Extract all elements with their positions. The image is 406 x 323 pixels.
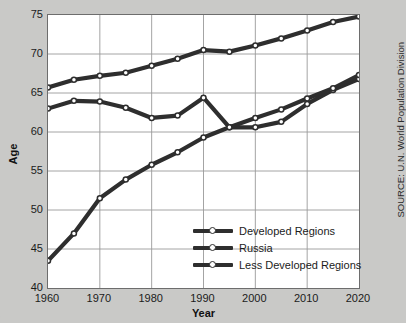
legend-item-developed-regions: Developed Regions — [193, 222, 353, 239]
x-tick-label: 1990 — [180, 293, 226, 304]
legend-label: Developed Regions — [239, 225, 335, 237]
chart-legend: Developed Regions Russia Less Developed … — [193, 222, 353, 273]
legend-label: Russia — [239, 242, 273, 254]
y-tick-label: 45 — [15, 243, 43, 254]
y-tick-label: 70 — [15, 48, 43, 59]
x-tick-label: 2000 — [231, 293, 277, 304]
x-tick-label: 2010 — [283, 293, 329, 304]
legend-item-russia: Russia — [193, 239, 353, 256]
y-tick-label: 65 — [15, 87, 43, 98]
x-tick-label: 1980 — [128, 293, 174, 304]
y-tick-label: 75 — [15, 9, 43, 20]
x-tick-label: 1970 — [76, 293, 122, 304]
legend-marker-icon — [193, 242, 233, 254]
x-tick-label: 1960 — [24, 293, 70, 304]
y-axis-label: Age — [7, 134, 19, 174]
legend-marker-icon — [193, 259, 233, 271]
source-note: SOURCE: U.N. World Population Division — [395, 38, 406, 218]
y-tick-label: 55 — [15, 165, 43, 176]
legend-item-less-developed-regions: Less Developed Regions — [193, 256, 353, 273]
x-axis-label: Year — [47, 307, 360, 319]
y-tick-label: 40 — [15, 282, 43, 293]
legend-marker-icon — [193, 225, 233, 237]
legend-label: Less Developed Regions — [239, 259, 361, 271]
x-tick-label: 2020 — [335, 293, 381, 304]
y-tick-label: 50 — [15, 204, 43, 215]
y-tick-label: 60 — [15, 126, 43, 137]
